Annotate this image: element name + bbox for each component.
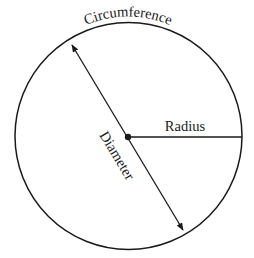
circumference-label: Circumference — [81, 3, 174, 28]
radius-label: Radius — [165, 118, 206, 134]
circle-diagram: Circumference Radius Diameter — [0, 0, 254, 258]
center-point — [125, 134, 131, 140]
